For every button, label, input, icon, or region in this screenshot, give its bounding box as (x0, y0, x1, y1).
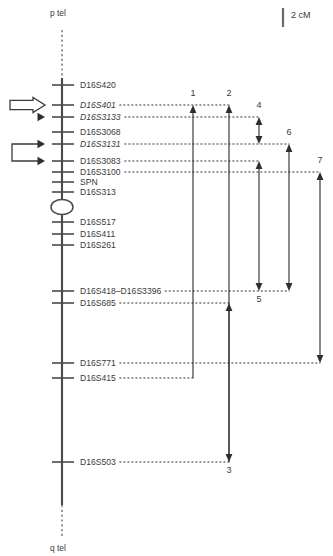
marker-label: SPN (80, 177, 98, 187)
pointer-group-upper (10, 97, 45, 121)
marker-label: D16S503 (80, 457, 116, 467)
interval-number-labels: 1234567 (190, 88, 322, 475)
marker-label: D16S3083 (80, 156, 121, 166)
interval-arrow-3 (226, 303, 233, 462)
bracket-connector (12, 144, 39, 161)
centromere-oval (51, 200, 73, 215)
interval-arrowhead-down (286, 283, 293, 291)
pointer-group-lower (12, 140, 45, 165)
marker-label: D16S685 (80, 298, 116, 308)
pointer-arrowhead (38, 140, 46, 148)
interval-arrowhead-up (190, 105, 197, 113)
interval-arrowhead-down (317, 355, 324, 363)
scale-bar: 2 cM (283, 8, 311, 27)
q-telomere-label: q tel (50, 543, 66, 553)
p-telomere-label: p tel (50, 8, 66, 18)
marker-label: D16S261 (80, 240, 116, 250)
interval-number: 2 (226, 88, 231, 98)
pointer-arrowhead (38, 157, 46, 165)
pointer-arrowhead (38, 113, 46, 121)
marker-label: D16S3068 (80, 127, 121, 137)
interval-arrow-4 (256, 117, 263, 144)
interval-arrows (190, 105, 324, 462)
marker-label: D16S415 (80, 373, 116, 383)
marker-label: D16S313 (80, 187, 116, 197)
interval-arrow-1 (190, 105, 197, 378)
marker-label: D16S517 (80, 217, 116, 227)
interval-arrowhead-up (317, 172, 324, 180)
centromere (51, 200, 73, 215)
interval-arrowhead-up (256, 161, 263, 169)
interval-arrowhead-down (226, 454, 233, 462)
interval-number: 3 (226, 465, 231, 475)
interval-number: 7 (317, 155, 322, 165)
interval-arrow-5 (256, 161, 263, 291)
marker-label: D16S401 (80, 100, 116, 110)
map-canvas: 2 cM D16S420D16S401D16S3133D16S3068D16S3… (0, 0, 333, 556)
interval-arrowhead-up (226, 105, 233, 113)
telomere-labels: p telq tel (50, 8, 66, 553)
marker-label: D16S420 (80, 80, 116, 90)
pointer-arrows (10, 97, 45, 165)
interval-number: 5 (256, 294, 261, 304)
genetic-map-figure: 2 cM D16S420D16S401D16S3133D16S3068D16S3… (0, 0, 333, 556)
scale-bar-label: 2 cM (291, 10, 311, 20)
interval-arrowhead-up (286, 144, 293, 152)
interval-arrowhead-up (256, 117, 263, 125)
interval-arrowhead-down (256, 136, 263, 144)
interval-arrowhead-down (256, 283, 263, 291)
interval-number: 4 (256, 100, 261, 110)
block-arrow-outline (10, 97, 45, 112)
interval-arrow-6 (286, 144, 293, 291)
marker-label: D16S411 (80, 229, 115, 239)
interval-arrowhead-up (226, 303, 233, 311)
interval-number: 1 (190, 88, 195, 98)
marker-label: D16S418–D16S3396 (80, 286, 161, 296)
marker-label: D16S771 (80, 358, 116, 368)
interval-arrow-7 (317, 172, 324, 363)
marker-labels: D16S420D16S401D16S3133D16S3068D16S3131D1… (80, 80, 161, 467)
marker-label: D16S3131 (80, 139, 121, 149)
interval-number: 6 (286, 127, 291, 137)
marker-label: D16S3100 (80, 167, 121, 177)
marker-label: D16S3133 (80, 112, 121, 122)
